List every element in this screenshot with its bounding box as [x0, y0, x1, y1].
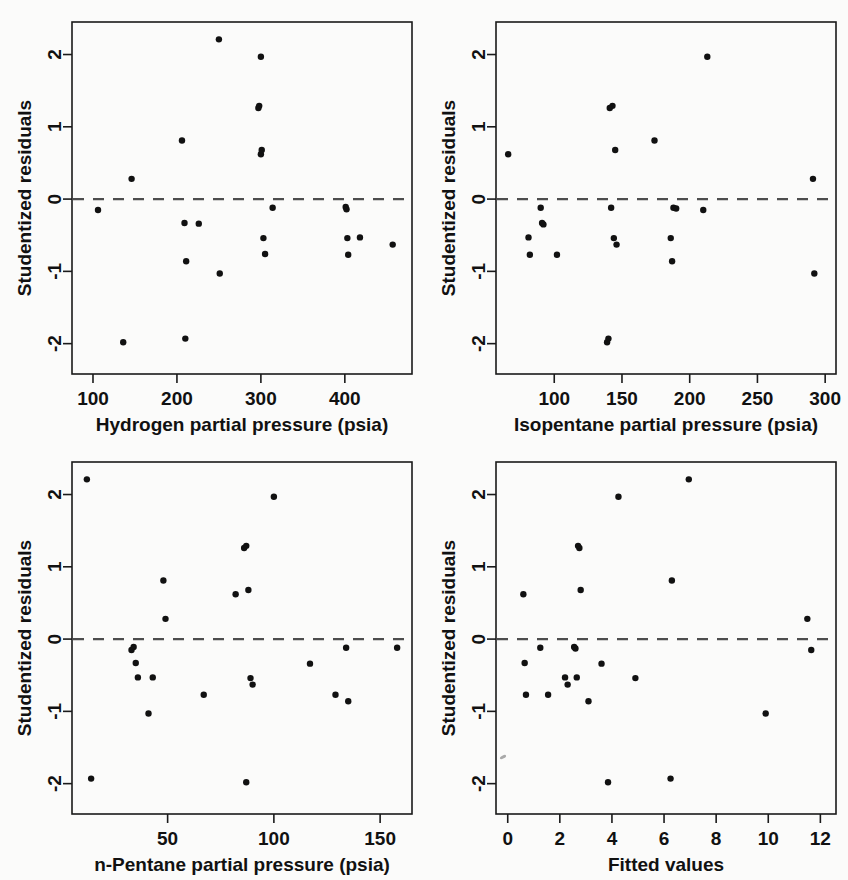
data-point	[249, 681, 255, 687]
panel-c-n-pentane: 50100150210-1-2Studentized residualsn-Pe…	[0, 440, 424, 880]
data-point	[632, 675, 638, 681]
data-point	[527, 252, 533, 258]
y-tick-label: 0	[469, 194, 490, 205]
data-point	[804, 616, 810, 622]
data-point	[357, 234, 363, 240]
data-point	[260, 235, 266, 241]
x-tick-label: 250	[742, 388, 774, 409]
y-axis-title: Studentized residuals	[438, 540, 459, 736]
x-tick-label: 200	[674, 388, 706, 409]
data-point	[243, 543, 249, 549]
y-tick-label: 1	[45, 121, 66, 132]
x-tick-label: 6	[659, 828, 670, 849]
data-point	[128, 176, 134, 182]
panel-b-isopentane: 100150200250300210-1-2Studentized residu…	[424, 0, 848, 440]
data-point	[84, 476, 90, 482]
data-point	[762, 710, 768, 716]
data-point	[217, 270, 223, 276]
x-tick-label: 4	[607, 828, 618, 849]
data-point	[615, 493, 621, 499]
x-tick-label: 50	[157, 828, 178, 849]
data-point	[389, 241, 395, 247]
data-point	[160, 577, 166, 583]
x-tick-label: 300	[809, 388, 841, 409]
data-point	[133, 660, 139, 666]
data-point	[196, 220, 202, 226]
data-point	[667, 775, 673, 781]
data-point	[150, 674, 156, 680]
data-point	[545, 692, 551, 698]
data-point	[572, 645, 578, 651]
y-tick-label: 1	[45, 561, 66, 572]
y-tick-label: 2	[45, 49, 66, 60]
y-axis: 210-1-2	[45, 49, 73, 352]
y-tick-label: 1	[469, 561, 490, 572]
data-point	[271, 493, 277, 499]
y-tick-label: 2	[469, 49, 490, 60]
data-point	[562, 674, 568, 680]
x-axis: 100200300400	[77, 374, 361, 409]
data-point	[605, 335, 611, 341]
data-point	[700, 207, 706, 213]
data-point	[704, 53, 710, 59]
x-tick-label: 100	[538, 388, 570, 409]
data-point	[521, 660, 527, 666]
data-point	[394, 645, 400, 651]
data-point	[686, 476, 692, 482]
residual-plot-figure: 100200300400210-1-2Studentized residuals…	[0, 0, 848, 880]
panel-d-fitted-values: 024681012210-1-2Studentized residualsFit…	[424, 440, 848, 880]
x-axis-title: n-Pentane partial pressure (psia)	[94, 854, 390, 875]
data-point	[540, 221, 546, 227]
y-tick-label: -1	[45, 262, 66, 279]
x-tick-label: 300	[245, 388, 277, 409]
data-point	[523, 692, 529, 698]
data-point	[612, 147, 618, 153]
x-tick-label: 0	[502, 828, 513, 849]
x-axis: 100150200250300	[538, 374, 841, 409]
data-point	[609, 103, 615, 109]
data-point	[162, 616, 168, 622]
data-point	[575, 543, 581, 549]
data-point	[585, 698, 591, 704]
y-tick-label: 1	[469, 121, 490, 132]
y-tick-label: -2	[469, 775, 490, 792]
x-axis-title: Isopentane partial pressure (psia)	[514, 414, 818, 435]
data-point	[669, 258, 675, 264]
y-axis: 210-1-2	[45, 489, 73, 792]
data-point	[651, 137, 657, 143]
x-tick-label: 8	[711, 828, 722, 849]
data-point	[345, 252, 351, 258]
data-point	[554, 252, 560, 258]
data-point	[259, 147, 265, 153]
x-axis-title: Hydrogen partial pressure (psia)	[96, 414, 388, 435]
data-point	[145, 710, 151, 716]
data-point	[505, 151, 511, 157]
data-point	[808, 647, 814, 653]
data-point	[668, 235, 674, 241]
x-tick-label: 100	[258, 828, 290, 849]
data-point	[307, 660, 313, 666]
data-point	[520, 591, 526, 597]
data-point	[613, 241, 619, 247]
data-point	[811, 270, 817, 276]
data-point	[537, 645, 543, 651]
x-tick-label: 2	[555, 828, 566, 849]
data-points	[520, 476, 814, 785]
data-point	[810, 176, 816, 182]
y-tick-label: 0	[45, 634, 66, 645]
scan-artifact	[499, 754, 506, 760]
data-point	[243, 779, 249, 785]
data-point	[262, 251, 268, 257]
y-axis-title: Studentized residuals	[14, 540, 35, 736]
data-point	[332, 692, 338, 698]
y-tick-label: -2	[45, 335, 66, 352]
y-tick-label: -2	[469, 335, 490, 352]
data-point	[183, 258, 189, 264]
data-point	[232, 591, 238, 597]
data-point	[611, 235, 617, 241]
data-point	[538, 205, 544, 211]
y-tick-label: -1	[469, 262, 490, 279]
y-tick-label: -2	[45, 775, 66, 792]
data-point	[669, 577, 675, 583]
data-point	[135, 674, 141, 680]
